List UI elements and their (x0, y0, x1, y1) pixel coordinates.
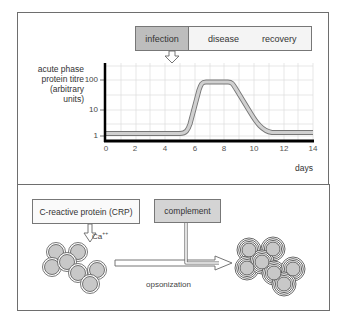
chart-graphics (0, 0, 345, 322)
crp-box-label: C-reactive protein (CRP) (39, 207, 132, 217)
crp-box: C-reactive protein (CRP) (32, 199, 140, 224)
infection-arrow-icon (165, 51, 179, 63)
chart-grid (106, 63, 313, 141)
titre-curve (106, 82, 313, 134)
bacteria-cluster-crp (43, 243, 107, 294)
calcium-charge: ++ (102, 230, 108, 236)
bacteria-cluster-opsonized (235, 237, 305, 296)
complement-box: complement (154, 199, 221, 223)
opsonization-label: opsonization (146, 280, 191, 289)
complement-box-label: complement (164, 206, 210, 216)
complement-connector (186, 223, 219, 263)
calcium-text: Ca (92, 232, 102, 241)
calcium-label: Ca++ (92, 230, 108, 241)
